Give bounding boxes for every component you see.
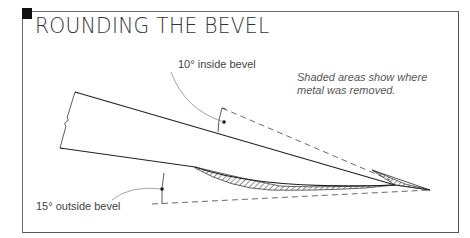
inside-bevel-leader [171, 72, 224, 122]
removed-metal-bottom [195, 167, 395, 190]
blade-top-edge [75, 92, 395, 185]
bevel-drawing [0, 0, 470, 238]
outside-bevel-reference [152, 190, 430, 204]
outside-bevel-leader [112, 188, 162, 200]
inside-bevel-reference [222, 108, 390, 180]
blade-break-mark [60, 92, 78, 149]
